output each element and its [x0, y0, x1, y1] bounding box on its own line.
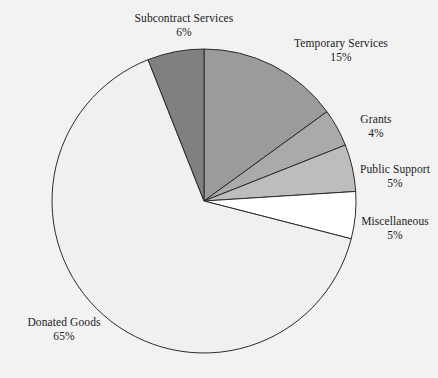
pie-label-value: 65% — [14, 329, 114, 343]
pie-chart: Subcontract Services 6% Temporary Servic… — [0, 0, 438, 378]
pie-label-subcontract-services: Subcontract Services 6% — [124, 11, 244, 39]
pie-label-public-support: Public Support 5% — [352, 162, 438, 190]
pie-label-value: 6% — [124, 25, 244, 39]
pie-label-name: Grants — [346, 112, 406, 126]
pie-label-donated-goods: Donated Goods 65% — [14, 315, 114, 343]
pie-label-name: Public Support — [352, 162, 438, 176]
pie-label-temporary-services: Temporary Services 15% — [277, 36, 405, 64]
pie-label-value: 5% — [352, 176, 438, 190]
pie-label-name: Temporary Services — [277, 36, 405, 50]
pie-label-name: Donated Goods — [14, 315, 114, 329]
pie-label-miscellaneous: Miscellaneous 5% — [352, 214, 438, 242]
pie-label-name: Miscellaneous — [352, 214, 438, 228]
pie-label-value: 5% — [352, 228, 438, 242]
pie-label-value: 4% — [346, 126, 406, 140]
pie-label-grants: Grants 4% — [346, 112, 406, 140]
pie-label-name: Subcontract Services — [124, 11, 244, 25]
pie-label-value: 15% — [277, 50, 405, 64]
